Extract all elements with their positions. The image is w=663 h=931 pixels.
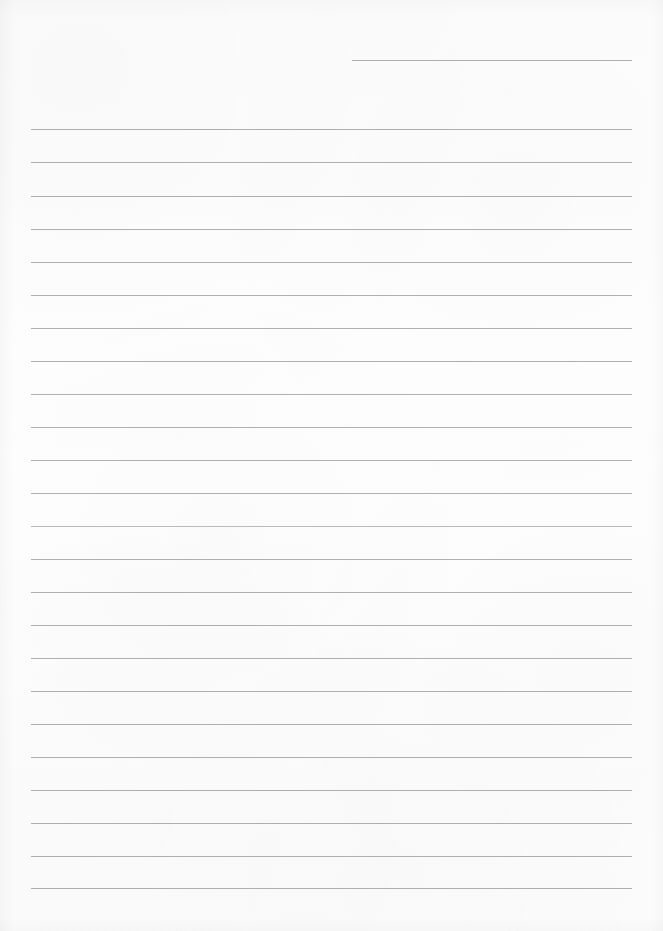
paper-texture-overlay <box>0 0 663 931</box>
lined-paper-page <box>0 0 663 931</box>
rule-line-10 <box>31 394 632 395</box>
rule-line-24 <box>31 856 632 857</box>
rule-line-21 <box>31 757 632 758</box>
rule-line-15 <box>31 559 632 560</box>
rule-line-11 <box>31 427 632 428</box>
rule-line-13 <box>31 493 632 494</box>
rule-line-20 <box>31 724 632 725</box>
rule-line-19 <box>31 691 632 692</box>
rule-line-14 <box>31 526 632 527</box>
rule-line-3 <box>31 162 632 163</box>
rule-line-9 <box>31 361 632 362</box>
rule-line-23 <box>31 823 632 824</box>
rule-line-25 <box>31 888 632 889</box>
rule-line-17 <box>31 625 632 626</box>
rule-line-8 <box>31 328 632 329</box>
rule-line-22 <box>31 790 632 791</box>
rule-line-4 <box>31 196 632 197</box>
rule-line-18 <box>31 658 632 659</box>
rule-line-7 <box>31 295 632 296</box>
rule-line-1 <box>352 60 632 61</box>
rule-line-5 <box>31 229 632 230</box>
rule-line-2 <box>31 129 632 130</box>
rule-line-6 <box>31 262 632 263</box>
rule-line-16 <box>31 592 632 593</box>
rule-line-12 <box>31 460 632 461</box>
